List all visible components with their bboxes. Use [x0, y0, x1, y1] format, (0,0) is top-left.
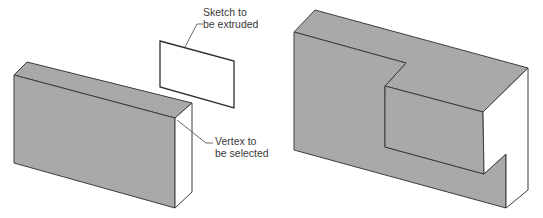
vertex-callout-line2: be selected: [215, 147, 269, 159]
extrude-diagram: Sketch to be extruded Vertex to be selec…: [0, 0, 543, 218]
base-block-side-face: [175, 103, 192, 208]
diagram-graphics: [0, 0, 543, 218]
sketch-callout-line1: Sketch to: [203, 6, 258, 18]
sketch-callout-line2: be extruded: [203, 18, 258, 30]
extruded-block-after: [294, 10, 528, 208]
sketch-leader-line: [185, 24, 203, 47]
sketch-callout-label: Sketch to be extruded: [203, 6, 258, 30]
vertex-callout-line1: Vertex to: [215, 135, 269, 147]
vertex-callout-label: Vertex to be selected: [215, 135, 269, 159]
